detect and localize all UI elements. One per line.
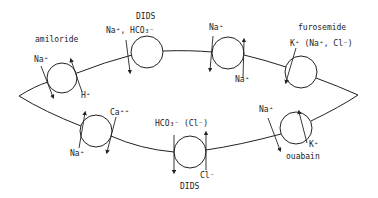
label-h-plus: H⁺ [81, 91, 91, 100]
hco3-cl-exchanger-circle [174, 136, 206, 168]
label-amiloride: amiloride [35, 35, 79, 44]
na-h-exchanger-circle [47, 63, 77, 93]
label-ca: Ca⁺⁺ [110, 108, 129, 117]
k-na-cl-cotransporter-circle [285, 56, 317, 88]
na-hco3-cotransporter-circle [131, 36, 163, 68]
label-k-plus: K⁺ [309, 140, 319, 149]
label-ouabain: ouabain [286, 152, 320, 161]
label-dids-bottom: DIDS [180, 182, 199, 191]
label-k-na-cl: K⁺ (Na⁺, Cl⁻) [290, 39, 353, 48]
label-na-bottom-left: Na⁺ [70, 149, 84, 158]
label-furosemide: furosemide [298, 23, 346, 32]
na-channel-circle [212, 37, 244, 69]
label-na-ouabain: Na⁺ [259, 105, 273, 114]
na-ca-exchanger-circle [80, 115, 112, 147]
label-na-top-mid-out: Na⁺ [235, 75, 249, 84]
label-na-amiloride: Na⁺ [34, 55, 48, 64]
label-na-top-mid: Na⁺ [209, 23, 223, 32]
transport-diagram: amiloride Na⁺ H⁺ DIDS Na⁺, HCO₃⁻ Na⁺ Na⁺… [0, 0, 378, 198]
label-hco3-cl: HCO₃⁻ (Cl⁻) [155, 119, 208, 128]
arrow-na-out-top-icon [243, 40, 244, 78]
label-na-hco3: Na⁺, HCO₃⁻ [106, 26, 154, 35]
label-dids-top: DIDS [136, 12, 155, 21]
na-k-atpase-circle [280, 112, 312, 144]
arrow-na-out-icon [268, 118, 280, 150]
label-cl-minus: Cl⁻ [200, 171, 214, 180]
